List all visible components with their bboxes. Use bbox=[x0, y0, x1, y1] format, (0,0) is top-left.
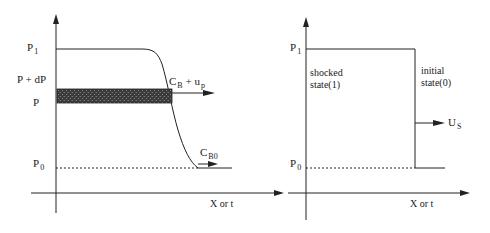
initial-state-label: initial state(0) bbox=[421, 65, 451, 89]
right-panel bbox=[288, 17, 470, 220]
right-p0-label: P0 bbox=[290, 158, 301, 169]
right-y-axis-arrow-icon bbox=[303, 17, 309, 27]
right-x-axis-arrow-icon bbox=[460, 190, 470, 196]
left-p1-label: P1 bbox=[27, 42, 38, 53]
cb-up-arrow-icon bbox=[203, 90, 215, 96]
cb0-arrow-icon bbox=[208, 161, 218, 167]
cb-up-label: CB + up bbox=[169, 76, 205, 87]
left-x-axis-label: X or t bbox=[210, 198, 233, 210]
left-y-axis-arrow-icon bbox=[53, 14, 59, 24]
left-p0-label: P0 bbox=[33, 158, 44, 169]
p-plus-dp-label: P + dP bbox=[17, 74, 46, 85]
right-x-axis-label: X or t bbox=[410, 198, 433, 210]
cb0-label: CB0 bbox=[200, 147, 218, 158]
us-arrow-icon bbox=[433, 120, 445, 126]
us-label: US bbox=[448, 117, 461, 128]
pressure-band bbox=[57, 89, 172, 103]
left-panel bbox=[31, 14, 284, 213]
shock-wave-diagram: P1 P + dP P P0 CB + up CB0 X or t P1 P0 … bbox=[0, 0, 490, 233]
right-p1-label: P1 bbox=[290, 42, 301, 53]
left-x-axis-arrow-icon bbox=[274, 190, 284, 196]
p-label: P bbox=[33, 97, 39, 108]
shocked-state-label: shocked state(1) bbox=[310, 67, 343, 91]
